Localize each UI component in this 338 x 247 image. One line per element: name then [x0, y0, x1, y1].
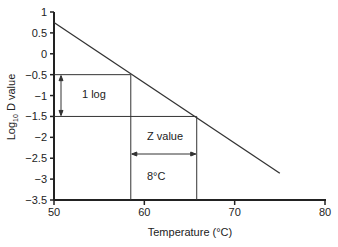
y-tick-label: −2 — [34, 131, 47, 143]
z-degrees-label: 8°C — [147, 170, 166, 182]
y-tick-label: 0 — [41, 48, 47, 60]
y-axis-label: Log10 D value — [5, 74, 19, 141]
x-tick-label: 70 — [229, 206, 241, 218]
y-tick-label: −3.5 — [25, 194, 47, 206]
z-value-label: Z value — [147, 130, 183, 142]
y-tick-label: −0.5 — [25, 69, 47, 81]
y-tick-label: −2.5 — [25, 152, 47, 164]
x-axis-label: Temperature (°C) — [148, 226, 232, 238]
y-tick-label: 0.5 — [32, 27, 47, 39]
chart: 10.50−0.5−1−1.5−2−2.5−3−3.5 50607080 1 l… — [0, 0, 338, 247]
y-tick-label: −1 — [34, 90, 47, 102]
x-tick-label: 60 — [138, 206, 150, 218]
x-ticks: 50607080 — [48, 200, 331, 218]
y-tick-label: −1.5 — [25, 110, 47, 122]
y-tick-label: 1 — [41, 6, 47, 18]
one-log-label: 1 log — [82, 88, 106, 100]
x-tick-label: 80 — [319, 206, 331, 218]
x-tick-label: 50 — [48, 206, 60, 218]
y-ticks: 10.50−0.5−1−1.5−2−2.5−3−3.5 — [25, 6, 54, 206]
y-tick-label: −3 — [34, 173, 47, 185]
